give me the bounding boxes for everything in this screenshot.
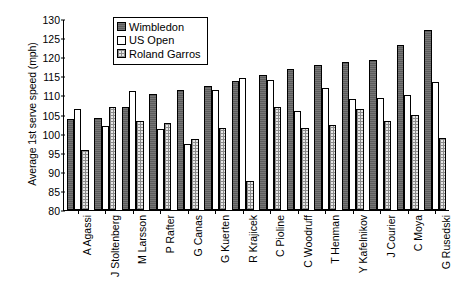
bar-rolandgarros (164, 123, 171, 210)
bar-rolandgarros (81, 150, 88, 210)
y-tick-mark (61, 211, 65, 212)
bar-usopen (74, 109, 81, 210)
x-label-cell: R Krajicek (228, 215, 256, 297)
x-tick-mark (78, 210, 79, 214)
y-tick-label: 130 (30, 14, 60, 26)
y-tick-label: 120 (30, 52, 60, 64)
bar-rolandgarros (109, 107, 116, 210)
y-tick-mark (61, 191, 65, 192)
bar-wimbledon (369, 60, 376, 210)
legend-swatch-usopen (117, 36, 126, 45)
x-tick-mark (380, 210, 381, 214)
bar-rolandgarros (356, 109, 363, 210)
bar-group (394, 20, 422, 210)
y-tick-label: 90 (30, 167, 60, 179)
x-tick-mark (408, 210, 409, 214)
y-tick-label: 125 (30, 33, 60, 45)
y-tick-mark (61, 134, 65, 135)
bar-rolandgarros (411, 115, 418, 210)
x-tick-mark (435, 210, 436, 214)
x-tick-mark (270, 210, 271, 214)
x-label-cell: C Woodruff (284, 215, 312, 297)
x-tick-mark (325, 210, 326, 214)
y-tick-mark (61, 58, 65, 59)
bar-wimbledon (259, 75, 266, 210)
bar-usopen (184, 144, 191, 211)
bar-group (312, 20, 340, 210)
x-tick-mark (160, 210, 161, 214)
y-tick-mark (61, 172, 65, 173)
bar-group (367, 20, 395, 210)
bar-wimbledon (287, 69, 294, 210)
legend-swatch-wimbledon (117, 22, 126, 31)
x-label-cell: P Rafter (146, 215, 174, 297)
legend-item-usopen: US Open (117, 34, 201, 48)
x-tick-mark (353, 210, 354, 214)
bar-wimbledon (94, 118, 101, 210)
x-label-cell: A Agassi (63, 215, 91, 297)
bar-rolandgarros (439, 138, 446, 210)
x-label-cell: G Canas (173, 215, 201, 297)
legend-swatch-rolandgarros (117, 49, 126, 58)
bar-usopen (294, 111, 301, 210)
x-label-cell: J Stoltenberg (91, 215, 119, 297)
x-label-cell: C Moya (394, 215, 422, 297)
x-label-cell: G Rusedski (422, 215, 450, 297)
bar-wimbledon (342, 62, 349, 210)
y-tick-label: 115 (30, 71, 60, 83)
bar-usopen (212, 90, 219, 210)
y-tick-label: 80 (30, 205, 60, 217)
bar-chart: Average 1st serve speed (mph) 1301251201… (0, 0, 470, 297)
bar-wimbledon (424, 30, 431, 211)
bar-usopen (349, 99, 356, 210)
bar-rolandgarros (274, 107, 281, 210)
y-tick-label: 85 (30, 186, 60, 198)
x-label-cell: M Larsson (118, 215, 146, 297)
x-axis-labels: A AgassiJ StoltenbergM LarssonP RafterG … (63, 215, 449, 297)
bar-wimbledon (314, 65, 321, 210)
bar-group (284, 20, 312, 210)
bar-rolandgarros (136, 121, 143, 210)
bar-group (64, 20, 92, 210)
bar-usopen (322, 88, 329, 210)
x-label-cell: C Pioline (256, 215, 284, 297)
bar-wimbledon (397, 45, 404, 210)
legend-label: Roland Garros (129, 48, 201, 60)
x-label-cell: G Kuerten (201, 215, 229, 297)
bar-wimbledon (67, 119, 74, 210)
bar-usopen (129, 91, 136, 210)
y-tick-mark (61, 153, 65, 154)
bar-usopen (432, 82, 439, 210)
bar-wimbledon (232, 81, 239, 210)
bar-usopen (267, 80, 274, 210)
x-axis-label: G Rusedski (440, 215, 452, 269)
bar-usopen (239, 78, 246, 210)
bar-group (339, 20, 367, 210)
x-tick-mark (133, 210, 134, 214)
bar-rolandgarros (329, 125, 336, 210)
bar-usopen (102, 126, 109, 210)
x-tick-mark (298, 210, 299, 214)
bar-rolandgarros (191, 139, 198, 210)
chart-legend: WimbledonUS OpenRoland Garros (113, 17, 208, 65)
y-tick-label: 110 (30, 90, 60, 102)
y-tick-mark (61, 39, 65, 40)
y-tick-label: 100 (30, 129, 60, 141)
y-tick-label: 105 (30, 110, 60, 122)
bar-rolandgarros (246, 181, 253, 210)
bar-wimbledon (204, 86, 211, 210)
bar-usopen (157, 129, 164, 210)
bar-wimbledon (149, 94, 156, 210)
legend-label: US Open (129, 34, 174, 46)
legend-item-rolandgarros: Roland Garros (117, 47, 201, 61)
x-label-cell: Y Kafelnikov (339, 215, 367, 297)
bar-group (422, 20, 450, 210)
x-tick-mark (105, 210, 106, 214)
y-tick-mark (61, 96, 65, 97)
y-tick-mark (61, 20, 65, 21)
x-tick-mark (215, 210, 216, 214)
bar-rolandgarros (219, 128, 226, 210)
y-tick-label: 95 (30, 148, 60, 160)
bar-group (229, 20, 257, 210)
bar-usopen (377, 98, 384, 210)
